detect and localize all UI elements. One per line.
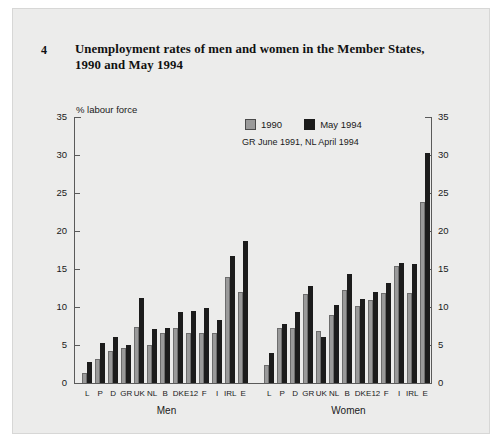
category-label-men-L: L	[85, 389, 89, 398]
y-axis-label-25-left: 25	[45, 187, 67, 198]
y-axis-left	[74, 117, 75, 384]
bar-men-NL-may-1994	[152, 329, 157, 383]
bar-women-IRL-may-1994	[412, 264, 417, 383]
category-label-men-P: P	[98, 389, 103, 398]
y-axis-label-25-right: 25	[438, 187, 460, 198]
category-label-men-E12: E12	[184, 389, 198, 398]
y-axis-label-30-right: 30	[438, 149, 460, 160]
category-label-women-GR: GR	[302, 389, 314, 398]
y-axis-label-15-left: 15	[45, 263, 67, 274]
category-label-men-NL: NL	[147, 389, 157, 398]
bar-women-L-may-1994	[269, 353, 274, 383]
category-label-women-DK: DK	[355, 389, 366, 398]
y-axis-label-15-right: 15	[438, 263, 460, 274]
bar-men-IRL-may-1994	[230, 256, 235, 383]
figure-number: 4	[41, 43, 47, 58]
category-label-women-IRL: IRL	[406, 389, 418, 398]
category-label-women-I: I	[398, 389, 400, 398]
bar-women-P-may-1994	[282, 324, 287, 383]
figure-panel: 4 Unemployment rates of men and women in…	[12, 8, 490, 434]
category-label-women-F: F	[384, 389, 389, 398]
bar-women-I-may-1994	[399, 263, 404, 383]
bar-men-I-may-1994	[217, 320, 222, 383]
bar-men-P-may-1994	[100, 343, 105, 383]
category-label-women-P: P	[280, 389, 285, 398]
bar-men-UK-may-1994	[139, 298, 144, 383]
bar-men-B-may-1994	[165, 328, 170, 383]
y-axis-label-20-right: 20	[438, 225, 460, 236]
bar-women-E12-may-1994	[373, 292, 378, 383]
bar-men-GR-may-1994	[126, 345, 131, 383]
y-axis-unit-label: % labour force	[76, 104, 137, 115]
y-axis-label-35-left: 35	[45, 111, 67, 122]
bar-men-E12-may-1994	[191, 311, 196, 383]
axis-cap-right	[425, 117, 432, 118]
y-tick-0-l	[75, 383, 80, 384]
y-tick-5-l	[75, 345, 80, 346]
bar-women-DK-may-1994	[360, 299, 365, 383]
y-axis-label-5-left: 5	[45, 339, 67, 350]
bar-women-F-may-1994	[386, 283, 391, 383]
group-label-women: Women	[331, 405, 365, 416]
bar-women-UK-may-1994	[321, 337, 326, 383]
axis-cap-left	[74, 117, 81, 118]
plot-area: 0055101015152020252530303535	[74, 117, 432, 384]
category-label-men-I: I	[216, 389, 218, 398]
y-axis-label-5-right: 5	[438, 339, 460, 350]
category-label-men-E: E	[241, 389, 246, 398]
y-axis-label-0-left: 0	[45, 377, 67, 388]
category-label-women-B: B	[345, 389, 350, 398]
bar-women-D-may-1994	[295, 312, 300, 383]
category-label-men-B: B	[163, 389, 168, 398]
category-label-women-D: D	[292, 389, 298, 398]
y-axis-label-20-left: 20	[45, 225, 67, 236]
figure-page: 4 Unemployment rates of men and women in…	[0, 0, 500, 440]
y-tick-0-r	[426, 383, 431, 384]
bar-women-GR-may-1994	[308, 286, 313, 383]
bar-women-NL-may-1994	[334, 305, 339, 383]
y-axis-label-35-right: 35	[438, 111, 460, 122]
category-label-women-UK: UK	[316, 389, 327, 398]
figure-title: Unemployment rates of men and women in t…	[75, 42, 445, 73]
category-label-women-E12: E12	[366, 389, 380, 398]
y-axis-label-0-right: 0	[438, 377, 460, 388]
y-axis-right	[431, 117, 432, 384]
category-label-men-F: F	[202, 389, 207, 398]
bar-men-F-may-1994	[204, 308, 209, 383]
category-label-women-E: E	[423, 389, 428, 398]
y-tick-25-l	[75, 193, 80, 194]
y-axis-label-10-left: 10	[45, 301, 67, 312]
category-label-men-UK: UK	[134, 389, 145, 398]
bar-women-B-may-1994	[347, 274, 352, 383]
category-label-men-D: D	[110, 389, 116, 398]
category-label-men-GR: GR	[120, 389, 132, 398]
category-label-men-IRL: IRL	[224, 389, 236, 398]
y-tick-20-l	[75, 231, 80, 232]
group-label-men: Men	[157, 405, 176, 416]
category-label-women-NL: NL	[329, 389, 339, 398]
category-label-men-DK: DK	[173, 389, 184, 398]
bar-women-E-may-1994	[425, 153, 430, 383]
bar-men-D-may-1994	[113, 337, 118, 383]
bar-men-L-may-1994	[87, 362, 92, 383]
x-axis	[74, 383, 432, 384]
y-axis-label-10-right: 10	[438, 301, 460, 312]
category-label-women-L: L	[267, 389, 271, 398]
y-tick-30-l	[75, 155, 80, 156]
bar-men-DK-may-1994	[178, 312, 183, 383]
y-tick-10-l	[75, 307, 80, 308]
bar-men-E-may-1994	[243, 241, 248, 383]
y-tick-15-l	[75, 269, 80, 270]
y-axis-label-30-left: 30	[45, 149, 67, 160]
